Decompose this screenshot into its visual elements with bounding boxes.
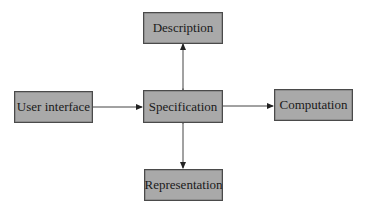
node-label: Representation [145, 177, 223, 193]
node-label: User interface [17, 99, 90, 115]
node-label: Specification [149, 99, 218, 115]
node-user-interface: User interface [14, 91, 93, 123]
node-computation: Computation [274, 89, 353, 121]
node-representation: Representation [144, 169, 223, 201]
node-label: Description [153, 20, 214, 36]
node-description: Description [143, 12, 223, 44]
node-specification: Specification [143, 90, 223, 123]
node-label: Computation [280, 97, 348, 113]
